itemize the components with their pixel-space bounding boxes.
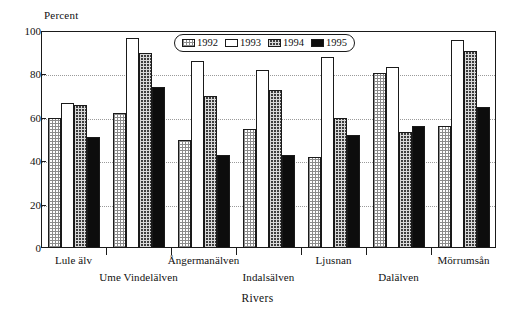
y-tick-label-80: 80 bbox=[7, 69, 41, 79]
bar-chart: Percent 020406080100 Lule älvUme Vindelä… bbox=[0, 0, 515, 319]
bar-indalsälven-1995 bbox=[282, 155, 295, 248]
bar-dalälven-1995 bbox=[412, 126, 425, 248]
bar-ångermanälven-1992 bbox=[178, 140, 191, 249]
y-tick-label-40: 40 bbox=[7, 156, 41, 166]
light-dotted-swatch bbox=[182, 39, 195, 47]
bar-lule-älv-1992 bbox=[48, 118, 61, 248]
legend-item-1992: 1992 bbox=[182, 38, 218, 48]
y-tick-label-0: 0 bbox=[7, 243, 41, 253]
bar-lule-älv-1993 bbox=[61, 103, 74, 248]
x-label-indalsälven: Indalsälven bbox=[243, 271, 295, 283]
bar-dalälven-1992 bbox=[373, 73, 386, 248]
bar-ångermanälven-1995 bbox=[217, 155, 230, 248]
bar-mörrumsån-1995 bbox=[477, 107, 490, 248]
y-tick-label-20: 20 bbox=[7, 200, 41, 210]
legend: 1992199319941995 bbox=[174, 34, 355, 52]
y-axis-title: Percent bbox=[44, 9, 78, 21]
bar-ume-vindelälven-1995 bbox=[152, 87, 165, 248]
x-label-ume-vindelälven: Ume Vindelälven bbox=[99, 271, 178, 283]
bar-ume-vindelälven-1992 bbox=[113, 113, 126, 248]
bar-dalälven-1994 bbox=[399, 132, 412, 248]
bar-ljusnan-1992 bbox=[308, 157, 321, 248]
bar-ångermanälven-1993 bbox=[191, 61, 204, 248]
black-swatch bbox=[311, 39, 324, 47]
x-label-ångermanälven: Ångermanälven bbox=[168, 254, 240, 266]
dark-dotted-swatch bbox=[268, 39, 281, 47]
x-label-dalälven: Dalälven bbox=[378, 271, 419, 283]
bar-dalälven-1993 bbox=[386, 67, 399, 248]
bar-ljusnan-1994 bbox=[334, 118, 347, 248]
x-label-ljusnan: Ljusnan bbox=[315, 254, 351, 266]
white-swatch bbox=[225, 39, 238, 47]
y-tick-label-100: 100 bbox=[7, 26, 41, 36]
legend-item-1995: 1995 bbox=[311, 38, 347, 48]
x-axis-title: Rivers bbox=[0, 292, 515, 304]
bar-indalsälven-1994 bbox=[269, 90, 282, 248]
bar-ume-vindelälven-1993 bbox=[126, 38, 139, 248]
y-axis: 020406080100 bbox=[0, 31, 41, 248]
x-label-lule-älv: Lule älv bbox=[55, 254, 92, 266]
legend-label-1994: 1994 bbox=[283, 38, 304, 48]
bar-lule-älv-1994 bbox=[74, 105, 87, 248]
bar-ljusnan-1995 bbox=[347, 135, 360, 248]
bar-indalsälven-1992 bbox=[243, 129, 256, 248]
bar-mörrumsån-1994 bbox=[464, 51, 477, 248]
bar-ume-vindelälven-1994 bbox=[139, 53, 152, 248]
legend-item-1994: 1994 bbox=[268, 38, 304, 48]
legend-item-1993: 1993 bbox=[225, 38, 261, 48]
bar-indalsälven-1993 bbox=[256, 70, 269, 248]
y-tick-label-60: 60 bbox=[7, 113, 41, 123]
bar-mörrumsån-1993 bbox=[451, 40, 464, 248]
bar-ljusnan-1993 bbox=[321, 57, 334, 248]
bar-mörrumsån-1992 bbox=[438, 126, 451, 248]
bar-ångermanälven-1994 bbox=[204, 96, 217, 248]
bars-container bbox=[41, 31, 496, 248]
x-label-mörrumsån: Mörrumsån bbox=[437, 254, 489, 266]
legend-label-1993: 1993 bbox=[240, 38, 261, 48]
legend-label-1992: 1992 bbox=[197, 38, 218, 48]
legend-label-1995: 1995 bbox=[326, 38, 347, 48]
bar-lule-älv-1995 bbox=[87, 137, 100, 248]
